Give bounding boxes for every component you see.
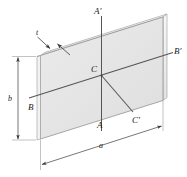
label-axis-a: A [96, 120, 103, 130]
label-dimension-a: a [99, 141, 103, 150]
plate-thickness-left-face [37, 56, 41, 141]
figure-container: A' A B' B C C' t b a [0, 0, 187, 177]
label-axis-b-prime: B' [174, 46, 182, 56]
label-axis-b: B [28, 102, 34, 112]
label-axis-a-prime: A' [93, 6, 102, 16]
dimension-b [12, 57, 36, 141]
plate-thickness-right-face [163, 14, 167, 101]
label-dimension-b: b [8, 94, 12, 103]
label-thickness-t: t [36, 28, 39, 37]
centroid-point [101, 75, 103, 77]
label-centroid-c: C [91, 64, 98, 74]
plate-axes-diagram: A' A B' B C C' t b a [0, 0, 187, 177]
label-axis-c-prime: C' [132, 115, 141, 125]
